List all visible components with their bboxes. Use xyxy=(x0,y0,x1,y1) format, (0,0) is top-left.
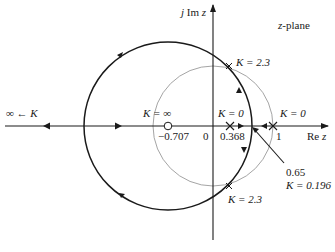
label-k-infinity-left: ∞ ← K xyxy=(6,107,38,119)
label-k-infinity-zero: K = ∞ xyxy=(142,107,171,119)
label-k-upper-crossing: K = 2.3 xyxy=(235,56,271,68)
breakin-leader-arrow-icon xyxy=(252,127,259,133)
label-k-zero-pole1: K = 0 xyxy=(217,107,244,119)
locus-arrow-icon xyxy=(43,123,50,130)
imag-axis-label: j Im z xyxy=(179,6,207,18)
root-locus-diagram: j Im z z-plane ∞ ← K K = ∞ K = 0 K = 0 K… xyxy=(0,0,335,252)
plane-label: z-plane xyxy=(277,19,310,31)
breakin-value-label: 0.65 xyxy=(286,166,306,178)
tick-origin: 0 xyxy=(203,130,209,142)
locus-arrow-icon xyxy=(261,123,267,129)
locus-arrow-icon xyxy=(241,147,247,153)
tick-pole-location: 0.368 xyxy=(220,130,245,142)
label-k-lower-crossing: K = 2.3 xyxy=(227,193,263,205)
tick-one: 1 xyxy=(276,130,282,142)
locus-arrow-icon xyxy=(238,123,244,129)
zero-marker-icon xyxy=(164,122,172,130)
breakin-gain-label: K = 0.196 xyxy=(285,179,332,191)
label-k-zero-pole2: K = 0 xyxy=(279,107,306,119)
real-axis-label: Re z xyxy=(307,130,327,142)
locus-arrow-icon xyxy=(236,87,242,93)
locus-arrow-icon xyxy=(115,123,122,130)
tick-zero-location: −0.707 xyxy=(158,130,189,142)
